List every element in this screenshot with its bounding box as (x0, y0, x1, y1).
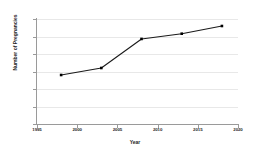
gridline (37, 89, 238, 90)
y-axis-line (36, 18, 37, 125)
x-axis-title: Year (0, 140, 270, 145)
data-point-marker (140, 38, 143, 41)
y-axis-title: Number of Pregnancies (13, 0, 18, 98)
gridline (37, 37, 238, 38)
x-tick-label: 1995 (24, 128, 50, 132)
series-markers (60, 25, 223, 77)
gridline (37, 72, 238, 73)
x-tick-label: 2010 (145, 128, 171, 132)
gridline (37, 54, 238, 55)
x-tick-label: 2000 (64, 128, 90, 132)
data-point-marker (100, 67, 103, 70)
data-point-marker (221, 25, 224, 28)
gridline (37, 107, 238, 108)
x-tick-label: 2020 (225, 128, 251, 132)
x-tick-label: 2015 (185, 128, 211, 132)
data-point-marker (60, 74, 63, 77)
series-line (61, 26, 222, 75)
line-chart: Number of Pregnancies 050100150200250300… (0, 0, 270, 152)
gridline (37, 19, 238, 20)
x-axis-line (36, 124, 239, 125)
data-point-marker (180, 32, 183, 35)
x-tick-label: 2005 (104, 128, 130, 132)
